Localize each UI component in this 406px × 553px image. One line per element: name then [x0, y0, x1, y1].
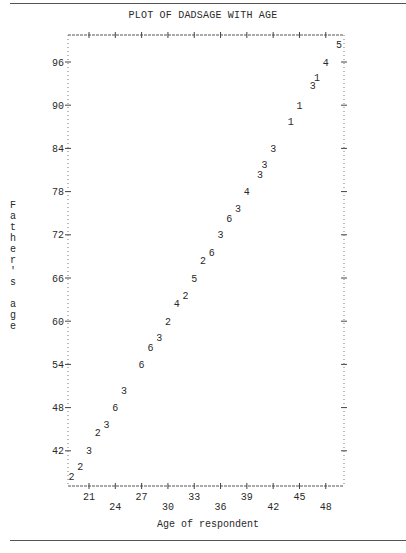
x-tick-label: 45	[293, 492, 305, 503]
y-tick-label: 78	[52, 187, 64, 198]
x-tick-label: 33	[188, 492, 200, 503]
data-point: 3	[121, 386, 127, 397]
data-point: 2	[68, 472, 74, 483]
x-tick-label: 21	[83, 492, 95, 503]
data-point: 4	[244, 187, 250, 198]
x-tick-label: 27	[136, 492, 148, 503]
y-tick-label: 54	[52, 360, 64, 371]
y-tick-label: 66	[52, 274, 64, 285]
data-point: 2	[95, 428, 101, 439]
y-tick-label: 96	[52, 58, 64, 69]
y-tick-label: 48	[52, 403, 64, 414]
data-point: 3	[86, 446, 92, 457]
data-point: 3	[104, 420, 110, 431]
data-point: 2	[165, 317, 171, 328]
data-point: 2	[200, 256, 206, 267]
x-tick-label: 36	[215, 502, 227, 513]
data-point: 4	[323, 58, 329, 69]
y-tick-label: 72	[52, 230, 64, 241]
x-axis-label: Age of respondent	[5, 519, 406, 530]
data-point: 5	[336, 40, 342, 51]
y-tick-label: 42	[52, 446, 64, 457]
data-point: 4	[174, 299, 180, 310]
data-point: 2	[182, 291, 188, 302]
data-point: 3	[257, 170, 263, 181]
x-tick-label: 24	[109, 502, 121, 513]
scatter-plot-area: 2124273033363942454842485460667278849096…	[0, 0, 406, 553]
data-point: 3	[261, 160, 267, 171]
y-tick-label: 84	[52, 144, 64, 155]
data-point: 1	[288, 117, 294, 128]
data-point: 6	[139, 360, 145, 371]
data-point: 1	[314, 73, 320, 84]
x-tick-label: 39	[241, 492, 253, 503]
data-point: 5	[191, 274, 197, 285]
data-point: 6	[112, 403, 118, 414]
data-point: 6	[226, 214, 232, 225]
y-tick-label: 90	[52, 101, 64, 112]
data-point: 3	[270, 144, 276, 155]
data-point: 6	[147, 343, 153, 354]
data-point: 3	[218, 230, 224, 241]
data-point: 1	[296, 101, 302, 112]
x-tick-label: 42	[267, 502, 279, 513]
data-point: 2	[77, 462, 83, 473]
data-point: 3	[156, 333, 162, 344]
data-point: 6	[209, 248, 215, 259]
bottom-rule	[10, 540, 406, 541]
data-point: 3	[235, 204, 241, 215]
y-tick-label: 60	[52, 317, 64, 328]
x-tick-label: 48	[320, 502, 332, 513]
x-tick-label: 30	[162, 502, 174, 513]
